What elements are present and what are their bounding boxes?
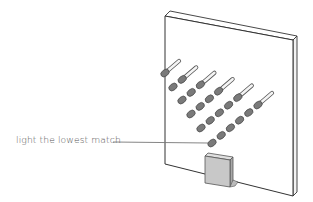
stand-block xyxy=(205,153,238,187)
diagram-canvas: light the lowest match xyxy=(0,0,313,202)
annotation-label: light the lowest match xyxy=(16,134,121,145)
match-board-illustration xyxy=(0,0,313,202)
